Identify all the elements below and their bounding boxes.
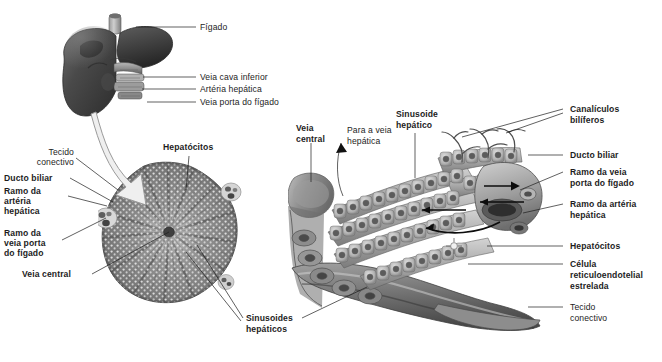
vesicula-biliar-hint — [101, 73, 115, 91]
label-celula-reticulo-l2: reticuloendotelial — [570, 270, 643, 280]
label-tecido-conectivo-esq-l2: conectivo — [8, 157, 74, 167]
label-veia-central-dir-l2: central — [296, 134, 325, 144]
figado-lobo-esquerdo — [117, 26, 173, 68]
lobulo-3d-illustration — [288, 118, 548, 343]
label-hepatocitos-esq: Hepatócitos — [163, 142, 213, 152]
label-ramo-arteria-esq-l2: artéria — [4, 196, 31, 206]
label-ramo-arteria-dir-l2: hepática — [570, 210, 606, 220]
label-sinusoide-hepatico-l2: hepático — [396, 120, 432, 130]
label-ramo-veia-porta-dir-l2: porta do fígado — [570, 178, 634, 188]
label-figado: Fígado — [200, 22, 227, 32]
label-veia-cava-inferior: Veia cava inferior — [200, 72, 268, 82]
label-sinusoides-hepaticos-l2: hepáticos — [246, 324, 287, 334]
triade-porta-inferior — [218, 275, 234, 290]
label-ramo-arteria-dir-l1: Ramo da artéria — [570, 199, 636, 209]
veia-central-lumen — [164, 227, 175, 237]
lobulo-secao-svg — [98, 160, 246, 310]
figado-organ-illustration — [58, 12, 178, 130]
label-ramo-veia-porta-esq-l1: Ramo da — [4, 228, 41, 238]
label-ramo-arteria-esq-l3: hepática — [4, 206, 40, 216]
lobulo-3d-svg — [288, 118, 548, 343]
label-tecido-conectivo-dir-l2: conectivo — [570, 313, 607, 323]
label-ducto-biliar-esq: Ducto biliar — [4, 173, 52, 183]
label-veia-porta-figado: Veia porta do fígado — [200, 97, 279, 107]
label-veia-central-esq: Veia central — [22, 269, 71, 279]
label-celula-reticulo-l3: estrelada — [570, 281, 609, 291]
label-tecido-conectivo-dir-l1: Tecido — [570, 302, 595, 312]
label-canaliculos-biliferos-l1: Canalículos — [570, 104, 619, 114]
label-ramo-arteria-esq-l1: Ramo da — [4, 186, 41, 196]
triade-porta-3d — [475, 162, 542, 234]
label-sinusoides-hepaticos-l1: Sinusoides — [246, 313, 293, 323]
label-tecido-conectivo-esq-l1: Tecido — [8, 147, 74, 157]
label-ramo-veia-porta-esq-l2: veia porta — [4, 238, 46, 248]
lobulo-secao-transversal-illustration — [98, 160, 246, 310]
label-ramo-veia-porta-esq-l3: do fígado — [4, 248, 44, 258]
triade-porta-direita — [221, 183, 241, 201]
label-sinusoide-hepatico-l1: Sinusoide — [396, 109, 438, 119]
label-ramo-veia-porta-dir-l1: Ramo da veia — [570, 167, 627, 177]
label-para-veia-hepatica-l2: hepática — [347, 136, 380, 146]
label-hepatocitos-dir: Hepatócitos — [570, 241, 620, 251]
label-canaliculos-biliferos-l2: bilíferos — [570, 115, 604, 125]
label-veia-central-dir-l1: Veia — [296, 123, 314, 133]
label-ducto-biliar-dir: Ducto biliar — [570, 150, 618, 160]
label-arteria-hepatica: Artéria hepática — [200, 84, 262, 94]
label-celula-reticulo-l1: Célula — [570, 259, 596, 269]
triade-porta-esquerda — [98, 208, 117, 228]
figure-canvas: Fígado Veia cava inferior Artéria hepáti… — [0, 0, 662, 362]
label-para-veia-hepatica-l1: Para a veia — [347, 125, 392, 135]
figado-organ-svg — [58, 12, 178, 130]
